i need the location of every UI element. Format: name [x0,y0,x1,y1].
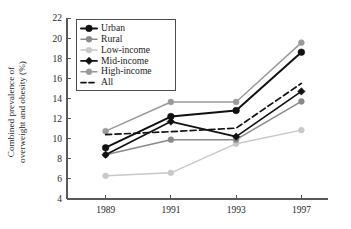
y-tick-label: 8 [57,154,62,164]
data-point [103,173,109,179]
y-tick-label: 4 [57,194,62,204]
legend-label: High-income [101,65,152,76]
legend-marker [86,47,92,53]
y-tick-label: 6 [57,174,62,184]
x-tick-label: 1997 [292,205,311,215]
chart-figure: Combined prevalence of overweight and ob… [0,0,351,229]
series-line [106,101,302,154]
y-tick-label: 18 [53,54,63,64]
data-point [168,113,175,120]
y-axis-title-line2: overweight and obesity (%) [17,61,27,163]
legend-label: Low-income [101,44,150,55]
y-axis-title-line1: Combined prevalence of [6,66,16,157]
legend-label: Rural [101,33,123,44]
series-line [106,130,302,176]
legend-marker [86,36,92,42]
legend-label: All [101,76,114,87]
data-point [298,40,304,46]
y-axis-ticks: 46810121416182022 [53,13,72,204]
series-line [106,91,302,154]
y-tick-label: 10 [53,134,63,144]
series-rural [103,99,305,158]
x-tick-label: 1993 [227,205,246,215]
data-point [233,107,240,114]
data-point [102,151,109,158]
data-point [102,144,109,151]
data-point [298,49,305,56]
data-point [168,137,174,143]
y-tick-label: 14 [53,94,63,104]
y-tick-label: 20 [53,34,63,44]
legend-label: Urban [101,22,125,33]
y-tick-label: 16 [53,74,63,84]
series-line [106,83,302,134]
y-axis-title: Combined prevalence of overweight and ob… [6,61,27,163]
data-point [168,99,174,105]
data-point [298,127,304,133]
x-axis-ticks: 1989199119931997 [96,195,311,215]
series-all [106,83,302,134]
chart-legend: UrbanRuralLow-incomeMid-incomeHigh-incom… [76,19,175,90]
y-tick-label: 12 [53,114,63,124]
data-point [103,128,109,134]
y-tick-label: 22 [53,13,63,23]
line-chart: Combined prevalence of overweight and ob… [0,0,351,229]
data-point [298,99,304,105]
x-tick-label: 1991 [161,205,180,215]
legend-marker [86,69,92,75]
data-point [233,99,239,105]
legend-marker [86,25,93,32]
x-tick-label: 1989 [96,205,115,215]
legend-label: Mid-income [101,55,148,66]
data-point [168,170,174,176]
